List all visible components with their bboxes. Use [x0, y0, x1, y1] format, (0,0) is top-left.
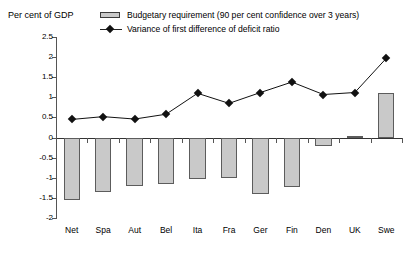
marker-den [319, 90, 327, 98]
y-axis-line [56, 37, 57, 218]
x-axis-tick [119, 138, 120, 143]
x-axis-tick [339, 138, 340, 143]
x-axis-tick [276, 138, 277, 143]
bar-fin [284, 138, 300, 187]
marker-swe [382, 54, 390, 62]
marker-spa [99, 112, 107, 120]
y-axis-title: Per cent of GDP [8, 10, 74, 21]
x-axis-label-swe: Swe [378, 225, 395, 235]
bar-fra [221, 138, 237, 178]
y-axis-tick-label: -1 [46, 174, 53, 182]
x-axis-label-ita: Ita [193, 225, 202, 235]
x-axis-tick [371, 138, 372, 143]
x-axis-tick [150, 138, 151, 143]
bar-bel [158, 138, 174, 184]
x-axis-tick [213, 138, 214, 143]
bar-uk [347, 136, 363, 138]
x-axis-tick [182, 138, 183, 143]
x-axis-tick [308, 138, 309, 143]
x-axis-label-fin: Fin [286, 225, 298, 235]
marker-net [67, 115, 75, 123]
marker-ita [193, 89, 201, 97]
x-axis-tick [87, 138, 88, 143]
marker-fin [288, 78, 296, 86]
y-axis-tick-label: 0 [49, 134, 53, 142]
legend-item-variance: Variance of first difference of deficit … [100, 23, 412, 35]
x-axis-tick [402, 138, 403, 143]
bar-spa [95, 138, 111, 192]
x-axis-label-spa: Spa [96, 225, 111, 235]
marker-aut [130, 115, 138, 123]
marker-fra [225, 99, 233, 107]
y-axis-tick-label: 0.5 [42, 113, 53, 121]
bar-swe [378, 93, 394, 137]
legend-label-budgetary-requirement: Budgetary requirement (90 per cent confi… [127, 10, 359, 20]
y-axis-tick-label: -2 [46, 214, 53, 222]
bar-ger [252, 138, 268, 194]
plot-area: 2.521.510.50-0.5-1-1.5-2 NetSpaAutBelIta… [56, 37, 402, 218]
y-axis-tick-label: 1 [49, 93, 53, 101]
x-axis-label-den: Den [316, 225, 332, 235]
x-axis-label-uk: UK [349, 225, 361, 235]
y-axis-tick-label: -0.5 [39, 154, 53, 162]
legend-swatch-bar-icon [100, 9, 122, 21]
x-axis-label-bel: Bel [160, 225, 172, 235]
y-axis-tick-label: 1.5 [42, 73, 53, 81]
x-axis-label-fra: Fra [223, 225, 236, 235]
x-axis-label-ger: Ger [253, 225, 267, 235]
y-axis-tick-label: 2.5 [42, 33, 53, 41]
bar-ita [189, 138, 205, 179]
x-axis-tick [245, 138, 246, 143]
marker-bel [162, 110, 170, 118]
chart-legend: Budgetary requirement (90 per cent confi… [100, 9, 412, 37]
bar-aut [126, 138, 142, 186]
x-axis-label-net: Net [65, 225, 78, 235]
x-axis-label-aut: Aut [128, 225, 141, 235]
x-axis-tick [56, 138, 57, 143]
bar-net [64, 138, 80, 200]
legend-item-budgetary-requirement: Budgetary requirement (90 per cent confi… [100, 9, 412, 21]
legend-label-variance: Variance of first difference of deficit … [127, 24, 280, 34]
y-axis-tick-label: 2 [49, 53, 53, 61]
marker-uk [351, 88, 359, 96]
y-axis-tick-label: -1.5 [39, 194, 53, 202]
marker-ger [256, 88, 264, 96]
bar-den [315, 138, 331, 146]
legend-swatch-line-diamond-icon [100, 23, 122, 35]
chart-container: Per cent of GDP Budgetary requirement (9… [0, 0, 418, 258]
